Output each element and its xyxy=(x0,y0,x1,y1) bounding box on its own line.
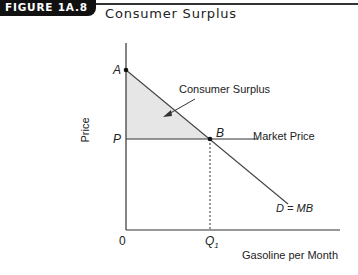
q1-main: Q xyxy=(205,234,214,248)
label-market-price: Market Price xyxy=(253,130,315,142)
point-b xyxy=(208,137,213,142)
label-p: P xyxy=(113,132,121,146)
label-q1: Q1 xyxy=(205,234,219,250)
label-origin: 0 xyxy=(119,234,126,248)
q1-sub: 1 xyxy=(214,241,218,250)
label-b: B xyxy=(216,126,224,140)
y-axis-title: Price xyxy=(79,117,91,142)
label-a: A xyxy=(113,63,121,77)
label-demand: D = MB xyxy=(276,202,313,214)
x-axis-title: Gasoline per Month xyxy=(242,249,338,261)
point-a xyxy=(124,68,129,73)
label-consumer-surplus: Consumer Surplus xyxy=(179,83,270,95)
